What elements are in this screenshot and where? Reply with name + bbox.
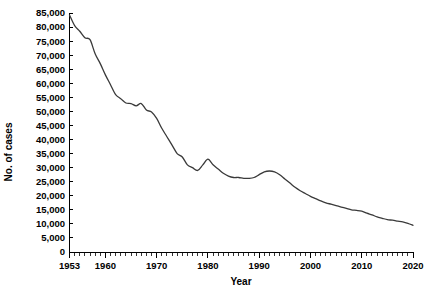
y-axis-title: No. of cases: [3, 122, 14, 181]
x-axis-tick-label: 1970: [146, 260, 167, 271]
y-axis-tick-label: 15,000: [36, 204, 65, 215]
y-axis-tick-label: 50,000: [36, 106, 65, 117]
x-axis-tick-label: 1953: [59, 260, 80, 271]
y-axis-tick-label: 75,000: [36, 36, 65, 47]
y-axis-tick-label: 5,000: [41, 232, 65, 243]
x-axis-tick-labels: 19531960197019801990200020102020: [59, 260, 424, 271]
data-series-group: [70, 15, 414, 225]
y-axis-tick-label: 0: [60, 246, 65, 257]
line-chart: No. of cases Year 05,00010,00015,00020,0…: [0, 0, 426, 294]
y-axis-tick-label: 25,000: [36, 176, 65, 187]
y-axis-tick-label: 85,000: [36, 7, 65, 18]
y-axis-tick-label: 70,000: [36, 50, 65, 61]
y-axis-tick-label: 20,000: [36, 190, 65, 201]
x-axis-title: Year: [230, 276, 251, 287]
x-axis-tick-label: 1960: [95, 260, 116, 271]
y-axis-tick-label: 55,000: [36, 92, 65, 103]
y-axis-tick-label: 35,000: [36, 148, 65, 159]
x-axis-tick-label: 2000: [300, 260, 321, 271]
chart-figure: No. of cases Year 05,00010,00015,00020,0…: [0, 0, 426, 294]
x-axis-tick-label: 2010: [351, 260, 372, 271]
y-axis-tick-marks: [70, 13, 74, 252]
y-axis-tick-label: 40,000: [36, 134, 65, 145]
y-axis-tick-label: 65,000: [36, 64, 65, 75]
x-axis-tick-label: 1990: [249, 260, 270, 271]
y-axis-tick-labels: 05,00010,00015,00020,00025,00030,00035,0…: [36, 7, 65, 257]
x-axis-tick-label: 2020: [402, 260, 423, 271]
y-axis-tick-label: 80,000: [36, 21, 65, 32]
y-axis-tick-label: 60,000: [36, 78, 65, 89]
x-axis-tick-label: 1980: [197, 260, 218, 271]
series-line-1: [70, 15, 414, 225]
y-axis-tick-label: 45,000: [36, 120, 65, 131]
y-axis-tick-label: 30,000: [36, 162, 65, 173]
y-axis-tick-label: 10,000: [36, 218, 65, 229]
